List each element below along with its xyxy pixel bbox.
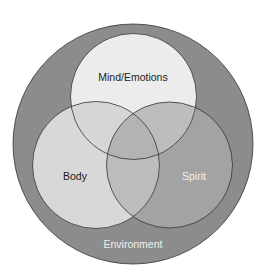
spirit-label: Spirit bbox=[182, 170, 206, 182]
mind-label: Mind/Emotions bbox=[98, 71, 167, 83]
environment-label: Environment bbox=[104, 238, 163, 250]
body-label: Body bbox=[63, 170, 88, 182]
venn-diagram: Mind/Emotions Body Spirit Environment bbox=[0, 0, 265, 275]
